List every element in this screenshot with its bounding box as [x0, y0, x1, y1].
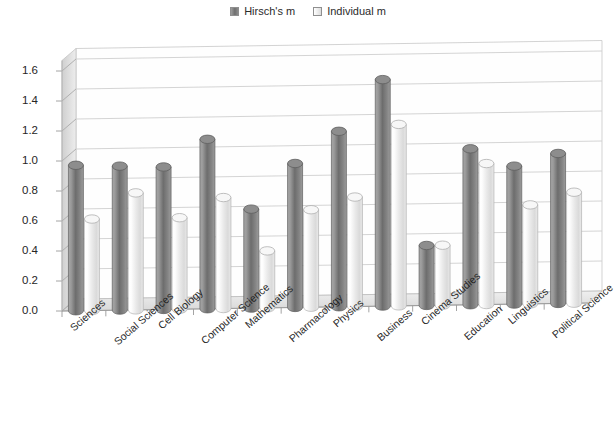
bar-hirschs-m-11 [551, 149, 566, 307]
bar-chart: Hirsch's m Individual m [0, 0, 616, 421]
bar-hirschs-m-4 [244, 205, 259, 312]
bar-individual-m-2 [172, 214, 187, 314]
bar-individual-m-11 [567, 188, 582, 307]
y-tick-label: 0.4 [4, 245, 38, 257]
bar-hirschs-m-1 [112, 162, 127, 314]
bar-hirschs-m-6 [331, 127, 346, 311]
y-tick-label: 0.6 [4, 215, 38, 227]
bar-hirschs-m-9 [463, 145, 478, 309]
y-tick-label: 0.2 [4, 275, 38, 287]
bar-individual-m-0 [84, 215, 99, 315]
y-tick-label: 0.0 [4, 305, 38, 317]
bar-hirschs-m-2 [156, 163, 171, 314]
y-tick-label: 1.4 [4, 95, 38, 107]
bar-hirschs-m-8 [419, 241, 434, 309]
plot-svg [0, 0, 616, 421]
bar-individual-m-3 [216, 193, 231, 312]
bar-individual-m-7 [391, 120, 406, 310]
bar-hirschs-m-5 [288, 159, 303, 311]
plot-area: 0.00.20.40.60.81.01.21.41.6 SciencesSoci… [0, 0, 616, 421]
y-axis-tick-labels: 0.00.20.40.60.81.01.21.41.6 [0, 0, 38, 421]
bar-hirschs-m-0 [68, 161, 83, 315]
y-tick-label: 1.0 [4, 155, 38, 167]
bar-individual-m-4 [260, 247, 275, 312]
bar-individual-m-10 [523, 201, 538, 308]
bar-individual-m-5 [304, 206, 319, 312]
bar-hirschs-m-3 [200, 135, 215, 313]
y-tick-label: 1.6 [4, 65, 38, 77]
bar-individual-m-6 [347, 193, 362, 311]
bar-hirschs-m-7 [375, 75, 390, 310]
bar-individual-m-8 [435, 241, 450, 309]
y-tick-label: 1.2 [4, 125, 38, 137]
y-tick-label: 0.8 [4, 185, 38, 197]
bar-individual-m-1 [128, 189, 143, 314]
bar-individual-m-9 [479, 159, 494, 308]
bar-hirschs-m-10 [507, 162, 522, 308]
